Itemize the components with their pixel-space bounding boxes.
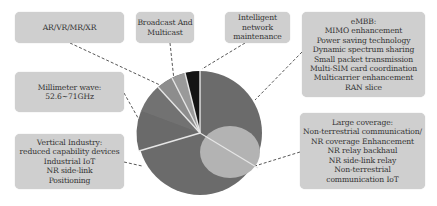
callout-line: Industrial IoT: [44, 157, 95, 166]
connector-intelligent: [202, 43, 245, 69]
callout-line: Vertical Industry:: [37, 138, 102, 147]
callout-line: Positioning: [49, 176, 91, 185]
callout-line: Power saving technology: [317, 36, 411, 45]
callout-line: 52.6~71GHz: [45, 92, 94, 101]
callout-line: Intelligent: [238, 13, 277, 22]
callout-line: Dynamic spectrum sharing: [313, 45, 415, 54]
callout-line: eMBB:: [351, 17, 377, 26]
connector-broadcast: [170, 43, 174, 80]
callout-line: Large coverage:: [332, 118, 393, 127]
callout-line: Small packet transmission: [314, 55, 413, 64]
callout-line: Millimeter wave:: [38, 83, 102, 92]
callout-line: Multicast: [147, 28, 182, 37]
callout-line: reduced capability devices: [19, 147, 119, 156]
connector-vertical: [124, 162, 142, 166]
callout-line: NR coverage Enhancement: [311, 137, 414, 146]
callout-line: Broadcast And: [137, 18, 192, 27]
callout-line: AR/VR/MR/XR: [43, 23, 97, 32]
callout-ar-vr: AR/VR/MR/XR: [15, 12, 124, 43]
callout-line: NR relay backhaul: [328, 146, 398, 155]
connector-embb: [255, 52, 302, 100]
callout-line: MIMO enhancement: [325, 26, 403, 35]
callout-line: Non-terrestrial communication/: [303, 127, 422, 136]
callout-line: RAN slice: [345, 83, 382, 92]
callout-large-coverage: Large coverage: Non-terrestrial communic…: [300, 113, 425, 189]
callout-line: network: [242, 23, 273, 32]
callout-broadcast: Broadcast And Multicast: [136, 12, 194, 43]
callout-vertical-industry: Vertical Industry: reduced capability de…: [15, 134, 124, 189]
callout-line: Multicarrier enhancement: [314, 73, 413, 82]
callout-millimeter-wave: Millimeter wave: 52.6~71GHz: [15, 72, 124, 112]
callout-line: maintenance: [233, 32, 282, 41]
callout-line: NR side-link relay: [329, 156, 396, 165]
callout-line: Non-terrestrial: [334, 165, 390, 174]
callout-line: NR side-link: [46, 166, 92, 175]
coverage-ellipse: [200, 126, 260, 178]
callout-embb: eMBB: MIMO enhancement Power saving tech…: [302, 12, 425, 97]
pie-chart: [137, 71, 262, 195]
callout-line: Multi-SIM card coordination: [310, 64, 417, 73]
callout-line: communication IoT: [326, 175, 399, 184]
callout-intelligent-network: Intelligent network maintenance: [225, 12, 290, 43]
